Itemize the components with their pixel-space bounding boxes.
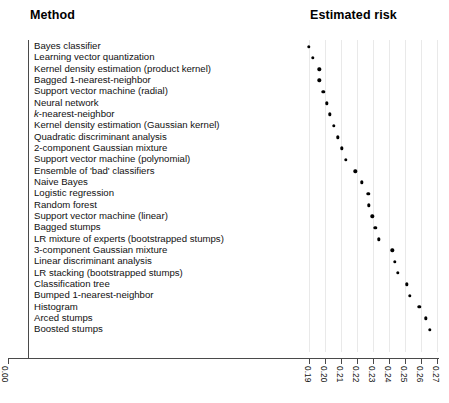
x-axis-tick bbox=[437, 358, 438, 364]
gridline bbox=[373, 40, 374, 352]
data-point bbox=[390, 249, 393, 252]
method-label: Bumped 1-nearest-neighbor bbox=[34, 290, 153, 300]
x-axis-tick-label: 0.27 bbox=[431, 366, 441, 382]
gridline bbox=[357, 40, 358, 352]
method-label: Random forest bbox=[34, 200, 97, 210]
x-axis-tick bbox=[373, 358, 374, 364]
x-axis-tick bbox=[325, 358, 326, 364]
x-axis-tick-label: 0.19 bbox=[303, 366, 313, 382]
method-label: 2-component Gaussian mixture bbox=[34, 143, 167, 153]
method-label: Boosted stumps bbox=[34, 324, 103, 334]
x-axis-origin-tick bbox=[8, 358, 9, 364]
gridline bbox=[421, 40, 422, 352]
data-point bbox=[374, 226, 377, 229]
x-axis-tick-label: 0.24 bbox=[383, 366, 393, 382]
data-point bbox=[318, 79, 321, 82]
x-axis-tick bbox=[405, 358, 406, 364]
x-axis-tick-label: 0.26 bbox=[415, 366, 425, 382]
method-label: Learning vector quantization bbox=[34, 52, 155, 62]
method-label: Kernel density estimation (product kerne… bbox=[34, 64, 211, 74]
x-axis-tick bbox=[309, 358, 310, 364]
data-point bbox=[377, 237, 380, 240]
x-axis-line bbox=[8, 358, 439, 359]
data-point bbox=[360, 181, 363, 184]
column-header-method: Method bbox=[30, 8, 75, 22]
panel-left-rule bbox=[28, 40, 29, 358]
method-label: Support vector machine (polynomial) bbox=[34, 154, 190, 164]
method-label: 3-component Gaussian mixture bbox=[34, 245, 167, 255]
x-axis-origin-label: 0.00 bbox=[0, 366, 10, 382]
x-axis-tick bbox=[421, 358, 422, 364]
data-point bbox=[344, 158, 347, 161]
gridline bbox=[341, 40, 342, 352]
method-label: LR mixture of experts (bootstrapped stum… bbox=[34, 234, 224, 244]
data-point bbox=[307, 45, 310, 48]
method-label: Classification tree bbox=[34, 279, 110, 289]
data-point bbox=[311, 56, 314, 59]
method-label: Histogram bbox=[34, 302, 78, 312]
method-label: Arced stumps bbox=[34, 313, 93, 323]
method-label: k-nearest-neighbor bbox=[34, 109, 115, 119]
method-label: Support vector machine (radial) bbox=[34, 86, 168, 96]
data-point bbox=[318, 67, 321, 70]
method-label: Ensemble of 'bad' classifiers bbox=[34, 166, 154, 176]
method-label: Bagged 1-nearest-neighbor bbox=[34, 75, 151, 85]
risk-dotplot-chart: Method Estimated risk Bayes classifierLe… bbox=[0, 0, 449, 403]
x-axis-tick bbox=[389, 358, 390, 364]
data-point bbox=[325, 101, 328, 104]
x-axis-tick-label: 0.23 bbox=[367, 366, 377, 382]
method-label: Linear discriminant analysis bbox=[34, 256, 152, 266]
method-label: LR stacking (bootstrapped stumps) bbox=[34, 268, 183, 278]
data-point bbox=[428, 328, 431, 331]
data-point bbox=[405, 283, 408, 286]
gridline bbox=[309, 40, 310, 352]
data-point bbox=[332, 124, 335, 127]
x-axis-tick-label: 0.22 bbox=[351, 366, 361, 382]
gridline bbox=[405, 40, 406, 352]
gridline bbox=[325, 40, 326, 352]
method-label: Logistic regression bbox=[34, 188, 114, 198]
method-label: Kernel density estimation (Gaussian kern… bbox=[34, 120, 220, 130]
data-point bbox=[328, 113, 331, 116]
column-header-estimated-risk: Estimated risk bbox=[310, 8, 397, 22]
data-point bbox=[408, 294, 411, 297]
gridline bbox=[437, 40, 438, 352]
method-label: Quadratic discriminant analysis bbox=[34, 132, 167, 142]
data-point bbox=[367, 203, 370, 206]
x-axis-tick-label: 0.21 bbox=[335, 366, 345, 382]
method-label: Support vector machine (linear) bbox=[34, 211, 168, 221]
data-point bbox=[366, 192, 369, 195]
data-point bbox=[424, 317, 427, 320]
x-axis-tick bbox=[357, 358, 358, 364]
method-label: Neural network bbox=[34, 98, 99, 108]
data-point bbox=[396, 271, 399, 274]
data-point bbox=[336, 135, 339, 138]
x-axis-tick-label: 0.25 bbox=[399, 366, 409, 382]
method-label: Naive Bayes bbox=[34, 177, 88, 187]
method-label: Bayes classifier bbox=[34, 41, 101, 51]
x-axis-tick bbox=[341, 358, 342, 364]
data-point bbox=[393, 260, 396, 263]
gridline bbox=[389, 40, 390, 352]
data-point bbox=[340, 147, 343, 150]
method-label: Bagged stumps bbox=[34, 222, 101, 232]
x-axis-tick-label: 0.20 bbox=[319, 366, 329, 382]
